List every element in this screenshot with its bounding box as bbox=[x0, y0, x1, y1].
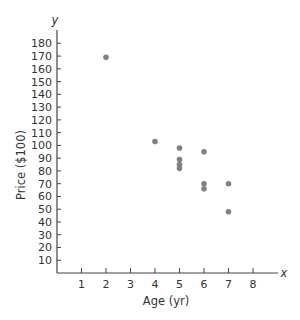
x-tick-label: 3 bbox=[127, 278, 134, 291]
y-tick-label: 180 bbox=[31, 37, 52, 50]
data-point bbox=[152, 139, 158, 145]
y-tick-label: 30 bbox=[38, 229, 52, 242]
y-tick-label: 160 bbox=[31, 63, 52, 76]
data-point bbox=[201, 186, 207, 192]
y-tick-label: 90 bbox=[38, 152, 52, 165]
x-tick-label: 4 bbox=[152, 278, 159, 291]
data-point bbox=[201, 149, 207, 155]
data-point bbox=[226, 181, 232, 187]
axes bbox=[57, 30, 278, 273]
y-tick-label: 40 bbox=[38, 216, 52, 229]
y-tick-label: 150 bbox=[31, 76, 52, 89]
y-tick-label: 100 bbox=[31, 139, 52, 152]
y-tick-label: 50 bbox=[38, 203, 52, 216]
y-tick-label: 110 bbox=[31, 127, 52, 140]
x-tick-label: 8 bbox=[250, 278, 257, 291]
x-tick-label: 5 bbox=[176, 278, 183, 291]
y-axis-title: Price ($100) bbox=[14, 130, 28, 200]
data-point bbox=[177, 166, 183, 172]
x-tick-label: 1 bbox=[78, 278, 85, 291]
x-tick-label: 2 bbox=[103, 278, 110, 291]
y-tick-label: 70 bbox=[38, 178, 52, 191]
scatter-plot: 1020304050607080901001101201301401501601… bbox=[0, 0, 300, 320]
y-tick-label: 120 bbox=[31, 114, 52, 127]
data-points bbox=[103, 55, 231, 215]
data-point bbox=[103, 55, 109, 61]
data-point bbox=[177, 145, 183, 151]
y-tick-label: 80 bbox=[38, 165, 52, 178]
data-point bbox=[201, 181, 207, 187]
y-tick-label: 60 bbox=[38, 190, 52, 203]
y-tick-label: 140 bbox=[31, 88, 52, 101]
y-tick-label: 170 bbox=[31, 50, 52, 63]
x-tick-label: 7 bbox=[225, 278, 232, 291]
data-point bbox=[226, 209, 232, 215]
x-axis-title: Age (yr) bbox=[143, 294, 189, 308]
x-axis-variable-label: x bbox=[280, 266, 288, 280]
y-tick-label: 10 bbox=[38, 254, 52, 267]
y-tick-label: 130 bbox=[31, 101, 52, 114]
y-axis-variable-label: y bbox=[51, 13, 59, 27]
data-point bbox=[177, 157, 183, 163]
y-tick-label: 20 bbox=[38, 241, 52, 254]
x-tick-label: 6 bbox=[201, 278, 208, 291]
x-axis-ticks: 12345678 bbox=[78, 268, 257, 291]
